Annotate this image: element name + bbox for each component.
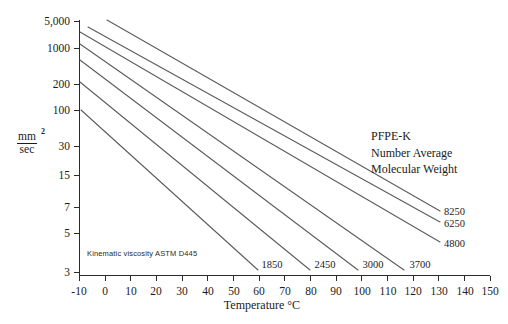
x-tick-label-90: 90 bbox=[330, 285, 342, 297]
x-tick-label-40: 40 bbox=[202, 285, 214, 297]
y-tick-label-200: 200 bbox=[16, 78, 70, 90]
y-tick-label-100: 100 bbox=[16, 104, 70, 116]
curve-3700 bbox=[80, 44, 404, 270]
curve-label-4800: 4800 bbox=[444, 238, 465, 249]
x-tick-label-130: 130 bbox=[430, 285, 447, 297]
y-tick-label-5: 5 bbox=[16, 227, 70, 239]
x-tick-label-70: 70 bbox=[279, 285, 291, 297]
curve-label-1850: 1850 bbox=[262, 259, 283, 270]
x-tick-label-80: 80 bbox=[305, 285, 317, 297]
x-tick-label-30: 30 bbox=[176, 285, 188, 297]
curve-8250 bbox=[107, 20, 440, 211]
x-tick-label-120: 120 bbox=[404, 285, 421, 297]
y-axis-unit-exponent: 2 bbox=[41, 128, 45, 136]
method-note: Kinematic viscosity ASTM D445 bbox=[87, 249, 197, 258]
x-tick-label-m10: -10 bbox=[71, 285, 86, 297]
y-tick-label-5000: 5,000 bbox=[16, 15, 70, 27]
curve-1850 bbox=[81, 110, 258, 270]
x-tick-label-50: 50 bbox=[228, 285, 240, 297]
y-tick-label-15: 15 bbox=[16, 169, 70, 181]
curve-label-3700: 3700 bbox=[410, 259, 431, 270]
annotation-line-1: PFPE-K bbox=[371, 128, 457, 145]
y-axis-unit-label: mm sec 2 bbox=[17, 131, 37, 155]
y-tick-label-7: 7 bbox=[16, 201, 70, 213]
x-tick-label-60: 60 bbox=[253, 285, 265, 297]
x-tick-marks bbox=[80, 276, 491, 282]
y-tick-label-1000: 1000 bbox=[16, 42, 70, 54]
y-tick-label-3: 3 bbox=[16, 266, 70, 278]
curve-label-3000: 3000 bbox=[363, 259, 384, 270]
annotation-line-3: Molecular Weight bbox=[371, 161, 457, 178]
annotation-line-2: Number Average bbox=[371, 145, 457, 162]
figure-caption bbox=[30, 311, 480, 324]
y-axis-unit-denominator: sec bbox=[17, 144, 37, 156]
x-tick-label-10: 10 bbox=[125, 285, 137, 297]
curve-3000 bbox=[80, 60, 358, 270]
viscosity-chart-figure: 5,000 1000 200 100 30 15 7 5 3 mm sec 2 … bbox=[0, 0, 508, 324]
y-tick-marks bbox=[74, 22, 80, 273]
x-tick-label-20: 20 bbox=[150, 285, 162, 297]
x-tick-label-100: 100 bbox=[353, 285, 370, 297]
y-axis-unit-numerator: mm bbox=[17, 131, 37, 144]
curve-label-8250: 8250 bbox=[444, 206, 465, 217]
x-tick-label-0: 0 bbox=[102, 285, 108, 297]
curve-label-2450: 2450 bbox=[315, 259, 336, 270]
x-tick-label-150: 150 bbox=[481, 285, 498, 297]
annotation-block: PFPE-K Number Average Molecular Weight bbox=[371, 128, 457, 178]
curve-6250 bbox=[88, 27, 440, 222]
curve-2450 bbox=[80, 82, 310, 270]
x-tick-label-110: 110 bbox=[380, 285, 397, 297]
x-tick-label-140: 140 bbox=[456, 285, 473, 297]
curve-label-6250: 6250 bbox=[444, 218, 465, 229]
